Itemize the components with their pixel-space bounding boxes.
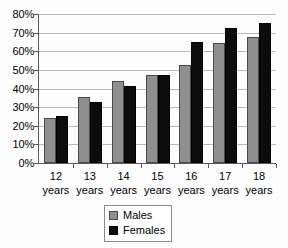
- y-axis-tick-label: 80%: [13, 9, 34, 20]
- x-axis-category-labels: 12years13years14years15years16years17yea…: [39, 169, 276, 201]
- legend-swatch-females-icon: [109, 226, 118, 235]
- x-axis-category-number: 18: [242, 169, 276, 183]
- bar-females: [225, 28, 237, 163]
- x-axis-category-unit: years: [39, 183, 73, 197]
- y-axis-tick-label: 60%: [13, 46, 34, 57]
- x-axis-category-unit: years: [141, 183, 175, 197]
- legend-label-males: Males: [123, 210, 152, 221]
- x-axis-category-unit: years: [242, 183, 276, 197]
- y-axis-tick-label: 20%: [13, 120, 34, 131]
- x-axis-category-unit: years: [107, 183, 141, 197]
- x-axis-category-number: 17: [208, 169, 242, 183]
- bar-males: [213, 43, 225, 163]
- bar-females: [259, 23, 271, 163]
- x-axis-category-label: 17years: [208, 169, 242, 197]
- bar-males: [44, 118, 56, 163]
- bar-males: [78, 97, 90, 163]
- x-axis-category-label: 12years: [39, 169, 73, 197]
- x-axis-category-number: 13: [73, 169, 107, 183]
- x-axis-category-unit: years: [208, 183, 242, 197]
- x-axis-tick-mark: [141, 164, 142, 168]
- y-axis-tick-labels: 0%10%20%30%40%50%60%70%80%: [0, 8, 34, 165]
- y-axis-tick-label: 0%: [19, 158, 35, 169]
- bar-males: [146, 75, 158, 163]
- x-axis-category-number: 16: [174, 169, 208, 183]
- x-axis-tick-mark: [276, 164, 277, 168]
- x-axis-tick-mark: [107, 164, 108, 168]
- x-axis-category-number: 14: [107, 169, 141, 183]
- legend-label-females: Females: [123, 225, 165, 236]
- bar-females: [90, 102, 102, 163]
- x-axis-category-number: 12: [39, 169, 73, 183]
- bar-males: [179, 65, 191, 163]
- x-axis-line: [38, 163, 276, 164]
- chart-legend: Males Females: [104, 205, 172, 242]
- x-axis-category-label: 16years: [174, 169, 208, 197]
- x-axis-tick-mark: [174, 164, 175, 168]
- bar-males: [247, 37, 259, 163]
- bar-females: [124, 86, 136, 163]
- bars-layer: [39, 14, 276, 163]
- y-axis-tick-label: 30%: [13, 102, 34, 113]
- x-axis-category-label: 13years: [73, 169, 107, 197]
- x-axis-category-label: 15years: [141, 169, 175, 197]
- legend-swatch-males-icon: [109, 211, 118, 220]
- legend-item-males: Males: [109, 208, 165, 223]
- x-axis-tick-mark: [73, 164, 74, 168]
- x-axis-category-label: 14years: [107, 169, 141, 197]
- y-axis-tick-label: 40%: [13, 83, 34, 94]
- x-axis-category-unit: years: [174, 183, 208, 197]
- x-axis-category-unit: years: [73, 183, 107, 197]
- bar-females: [56, 116, 68, 163]
- bar-females: [158, 75, 170, 163]
- x-axis-category-number: 15: [141, 169, 175, 183]
- y-axis-tick-label: 70%: [13, 27, 34, 38]
- bar-chart: 0%10%20%30%40%50%60%70%80% 12years13year…: [0, 0, 288, 248]
- y-axis-tick-label: 50%: [13, 64, 34, 75]
- bar-females: [191, 42, 203, 163]
- legend-item-females: Females: [109, 223, 165, 238]
- y-axis-tick-label: 10%: [13, 139, 34, 150]
- x-axis-category-label: 18years: [242, 169, 276, 197]
- bar-males: [112, 81, 124, 163]
- plot-area: 0%10%20%30%40%50%60%70%80% 12years13year…: [0, 0, 288, 200]
- x-axis-tick-mark: [208, 164, 209, 168]
- x-axis-tick-mark: [242, 164, 243, 168]
